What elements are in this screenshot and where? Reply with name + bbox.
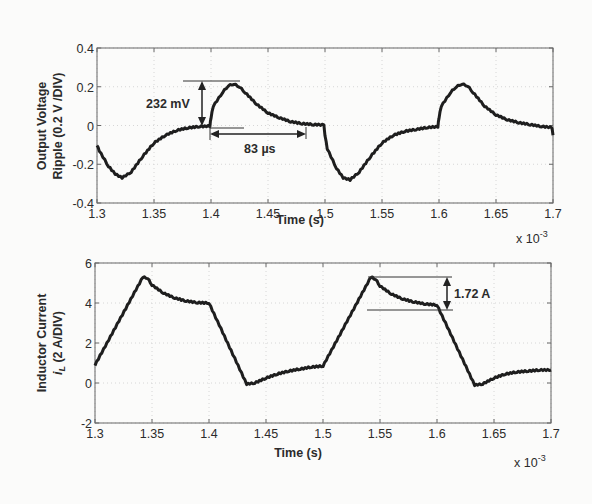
y-tick-label: -0.4 <box>72 197 94 211</box>
y-tick-label: -0.2 <box>72 158 94 172</box>
x-tick-label: 1.6 <box>430 207 447 221</box>
x-tick-label: 1.5 <box>314 427 331 441</box>
x-tick-label: 1.4 <box>200 427 217 441</box>
x-tick-labels: 1.31.351.41.451.51.551.61.651.7 <box>88 207 561 221</box>
y-tick-label: 0 <box>85 377 92 391</box>
x-tick-label: 1.45 <box>254 427 278 441</box>
annotation-label-232mv: 232 mV <box>146 97 190 111</box>
output-voltage-plot: 1.31.351.41.451.51.551.61.651.7 0.40.20-… <box>35 42 562 246</box>
svg-text:iL (2 A/DIV): iL (2 A/DIV) <box>51 311 67 375</box>
svg-text:Output Voltage: Output Voltage <box>35 82 49 171</box>
y-tick-label: 0.2 <box>77 81 94 95</box>
y-tick-label: 0 <box>87 120 94 134</box>
figure: 1.31.351.41.451.51.551.61.651.7 0.40.20-… <box>0 0 592 504</box>
y-tick-label: 6 <box>85 257 92 271</box>
x-tick-label: 1.55 <box>368 427 392 441</box>
x-tick-labels: 1.31.351.41.451.51.551.61.651.7 <box>86 427 559 441</box>
x-axis-label: Time (s) <box>276 213 324 227</box>
y-axis-label: Output Voltage Ripple (0.2 V /DIV) <box>35 73 65 180</box>
y-tick-label: 0.4 <box>77 42 94 56</box>
x-tick-label: 1.65 <box>482 427 506 441</box>
svg-text:Ripple (0.2 V /DIV): Ripple (0.2 V /DIV) <box>51 73 65 180</box>
x-multiplier: x 10-3 <box>514 453 546 470</box>
x-tick-label: 1.35 <box>140 427 164 441</box>
y-tick-label: -2 <box>81 417 92 431</box>
x-tick-label: 1.4 <box>202 207 219 221</box>
y-tick-labels: 6420-2 <box>81 257 92 431</box>
inductor-current-plot: 1.31.351.41.451.51.551.61.651.7 6420-2 1… <box>35 257 560 470</box>
x-axis-label: Time (s) <box>274 446 322 460</box>
annotation-label-83us: 83 µs <box>244 142 276 156</box>
y-tick-label: 2 <box>85 337 92 351</box>
x-multiplier: x 10-3 <box>516 229 548 246</box>
x-tick-label: 1.7 <box>542 427 559 441</box>
x-tick-label: 1.65 <box>484 207 508 221</box>
x-tick-label: 1.6 <box>428 427 445 441</box>
y-tick-labels: 0.40.20-0.2-0.4 <box>72 42 94 211</box>
x-tick-label: 1.7 <box>544 207 561 221</box>
y-tick-label: 4 <box>85 297 92 311</box>
x-tick-label: 1.55 <box>370 207 394 221</box>
svg-text:Inductor Current: Inductor Current <box>35 293 49 392</box>
annotation-83us: 83 µs <box>210 126 306 156</box>
x-tick-label: 1.35 <box>142 207 166 221</box>
annotation-label-1-72a: 1.72 A <box>454 287 490 301</box>
y-axis-label: Inductor Current iL (2 A/DIV) <box>35 293 67 392</box>
